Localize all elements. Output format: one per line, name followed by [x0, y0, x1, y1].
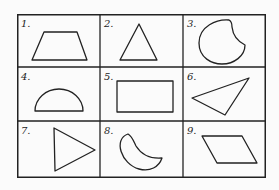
- parallelogram-shape: [202, 136, 257, 163]
- cell-label-5: 5.: [104, 72, 114, 82]
- semicircle-shape: [35, 89, 83, 111]
- cell-label-2: 2.: [104, 19, 114, 29]
- crescent-shape: [120, 134, 162, 170]
- cell-label-7: 7.: [21, 126, 31, 136]
- cell-label-9: 9.: [187, 126, 197, 136]
- scalene-triangle-shape: [192, 78, 249, 115]
- cell-label-4: 4.: [21, 72, 31, 82]
- grid-lines: [17, 14, 266, 178]
- cell-label-8: 8.: [104, 126, 114, 136]
- triangle-shape: [120, 24, 157, 60]
- cell-label-3: 3.: [187, 19, 197, 29]
- cell-label-6: 6.: [187, 72, 197, 82]
- trapezoid-shape: [32, 32, 87, 60]
- rectangle-shape: [117, 81, 173, 112]
- shapes-grid: 1. 2. 3. 4. 5. 6. 7. 8. 9.: [17, 14, 266, 178]
- right-triangle-shape: [54, 128, 95, 171]
- cell-label-1: 1.: [21, 19, 31, 29]
- circle-notch-shape: [199, 20, 245, 64]
